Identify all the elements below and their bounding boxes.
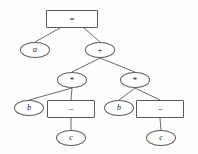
tree-node-label-minusR: − xyxy=(157,105,162,114)
tree-node-bR[interactable]: b xyxy=(104,100,134,116)
tree-edge-eq-to-a xyxy=(35,28,60,42)
tree-node-label-cL: c xyxy=(69,134,73,142)
tree-node-plus[interactable]: + xyxy=(85,42,115,58)
tree-node-label-a: a xyxy=(33,46,37,54)
tree-edge-mulL-to-bL xyxy=(29,88,72,100)
tree-node-label-eq: = xyxy=(69,15,74,24)
tree-node-label-bR: b xyxy=(117,104,121,112)
tree-node-bL[interactable]: b xyxy=(14,100,44,116)
tree-node-eq[interactable]: = xyxy=(46,10,98,28)
tree-node-mulL[interactable]: * xyxy=(57,72,87,88)
tree-node-label-mulR: * xyxy=(133,76,138,85)
tree-node-label-cR: c xyxy=(159,134,163,142)
tree-edge-mulR-to-bR xyxy=(119,88,135,100)
tree-edge-plus-to-mulL xyxy=(72,58,100,72)
tree-node-minusR[interactable]: − xyxy=(136,100,184,118)
tree-node-label-plus: + xyxy=(97,46,102,55)
tree-edge-plus-to-mulR xyxy=(100,58,135,72)
tree-edge-mulR-to-minusR xyxy=(135,88,160,100)
tree-node-cR[interactable]: c xyxy=(146,130,176,146)
tree-node-minusL[interactable]: − xyxy=(47,100,95,118)
tree-edge-mulL-to-minusL xyxy=(71,88,72,100)
tree-node-a[interactable]: a xyxy=(20,42,50,58)
tree-edge-minusR-to-cR xyxy=(160,118,161,130)
tree-node-label-bL: b xyxy=(27,104,31,112)
expression-tree-diagram: =a+**b−b−cc xyxy=(0,0,198,154)
tree-node-label-mulL: * xyxy=(70,76,75,85)
tree-node-cL[interactable]: c xyxy=(56,130,86,146)
tree-node-mulR[interactable]: * xyxy=(120,72,150,88)
tree-edge-eq-to-plus xyxy=(84,28,100,42)
tree-node-label-minusL: − xyxy=(68,105,73,114)
